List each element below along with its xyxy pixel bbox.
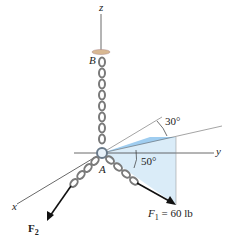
angle-30-label: 30°: [165, 115, 180, 127]
angle-50-label: 50°: [141, 155, 156, 167]
f2-symbol: F: [28, 222, 35, 234]
point-b-label: B: [89, 54, 96, 66]
force-f2-arrow: [50, 186, 71, 216]
f1-symbol: F: [148, 207, 155, 219]
force-diagram: z y x B A 30° 50° F1 = 60 lb F2: [0, 0, 232, 244]
force-f1-label: F1 = 60 lb: [148, 207, 193, 222]
f2-subscript: 2: [35, 228, 39, 237]
ring-a: [97, 148, 107, 158]
x-axis: [17, 153, 102, 204]
z-axis-label: z: [99, 1, 103, 13]
projection-plane: [102, 137, 176, 205]
vertical-chain: [99, 58, 105, 144]
point-a-label: A: [99, 163, 106, 175]
f1-value: = 60 lb: [159, 207, 193, 219]
diagram-graphics: [0, 0, 232, 244]
y-axis-label: y: [216, 145, 221, 157]
chain-f2: [69, 156, 100, 189]
x-axis-label: x: [12, 200, 17, 212]
force-f2-label: F2: [28, 222, 39, 237]
